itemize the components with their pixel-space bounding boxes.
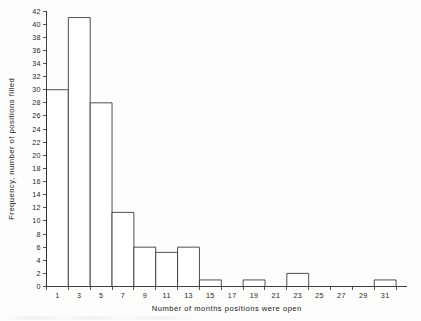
- histogram-bar: [374, 280, 396, 287]
- histogram-plot: 024681012141618202224262830323436384042 …: [0, 0, 421, 321]
- y-tick-label: 16: [32, 177, 41, 186]
- histogram-bar: [178, 247, 200, 286]
- histogram-bar: [90, 103, 112, 287]
- y-tick-label: 38: [32, 33, 41, 42]
- y-tick-label: 6: [37, 243, 41, 252]
- x-tick-label: 31: [381, 291, 390, 300]
- histogram-bar: [199, 280, 221, 287]
- x-tick-label: 15: [206, 291, 215, 300]
- x-axis-ticks: 135791113151719212325272931: [47, 287, 397, 301]
- x-tick-label: 25: [315, 291, 324, 300]
- y-tick-label: 12: [32, 203, 41, 212]
- y-tick-label: 42: [32, 7, 41, 16]
- y-tick-label: 2: [37, 269, 41, 278]
- x-tick-label: 7: [121, 291, 125, 300]
- x-axis-title: Number of months positions were open: [152, 304, 302, 313]
- y-axis-ticks: 024681012141618202224262830323436384042: [32, 7, 46, 292]
- x-tick-label: 21: [272, 291, 281, 300]
- histogram-bar: [47, 90, 69, 287]
- y-tick-label: 34: [32, 59, 41, 68]
- y-tick-label: 28: [32, 98, 41, 107]
- x-tick-label: 1: [55, 291, 59, 300]
- histogram-bar: [112, 212, 134, 286]
- y-tick-label: 10: [32, 216, 41, 225]
- x-tick-label: 17: [228, 291, 237, 300]
- y-tick-label: 40: [32, 20, 41, 29]
- x-tick-label: 23: [293, 291, 302, 300]
- y-axis-title: Frequency, number of positions filled: [7, 78, 16, 220]
- y-tick-label: 32: [32, 72, 41, 81]
- histogram-bar: [156, 252, 178, 286]
- x-tick-label: 3: [77, 291, 81, 300]
- y-tick-label: 26: [32, 111, 41, 120]
- x-tick-label: 27: [337, 291, 346, 300]
- y-tick-label: 30: [32, 85, 41, 94]
- x-tick-label: 5: [99, 291, 103, 300]
- y-tick-label: 20: [32, 151, 41, 160]
- y-tick-label: 8: [37, 230, 41, 239]
- histogram-figure: 024681012141618202224262830323436384042 …: [0, 0, 421, 321]
- y-tick-label: 36: [32, 46, 41, 55]
- y-tick-label: 4: [37, 256, 41, 265]
- y-tick-label: 18: [32, 164, 41, 173]
- x-tick-label: 11: [163, 291, 171, 300]
- histogram-bar: [68, 18, 90, 287]
- y-tick-label: 0: [37, 282, 41, 291]
- histogram-bar: [287, 273, 309, 286]
- histogram-bars: [47, 18, 397, 287]
- histogram-bar: [134, 247, 156, 286]
- x-tick-label: 29: [359, 291, 368, 300]
- y-tick-label: 14: [32, 190, 41, 199]
- x-tick-label: 13: [184, 291, 193, 300]
- x-tick-label: 19: [250, 291, 259, 300]
- y-tick-label: 24: [32, 125, 41, 134]
- x-tick-label: 9: [143, 291, 147, 300]
- y-tick-label: 22: [32, 138, 41, 147]
- histogram-bar: [243, 280, 265, 287]
